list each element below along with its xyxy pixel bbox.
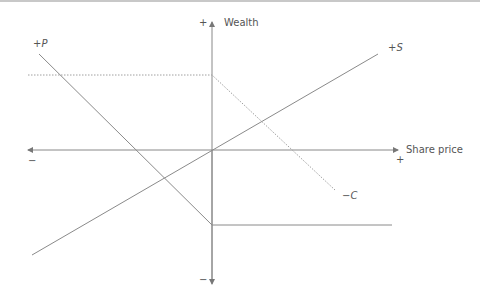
put-line [39,54,392,225]
x-minus-label: − [28,155,36,166]
y-plus-label: + [199,17,207,28]
x-plus-label: + [396,154,404,165]
x-axis-label: Share price [406,144,463,155]
y-axis-label: Wealth [224,17,259,28]
put-label: +P [33,38,47,49]
call-line [28,75,335,190]
call-label: −C [342,190,357,201]
y-minus-label: − [199,274,207,285]
stock-label: +S [388,42,403,53]
